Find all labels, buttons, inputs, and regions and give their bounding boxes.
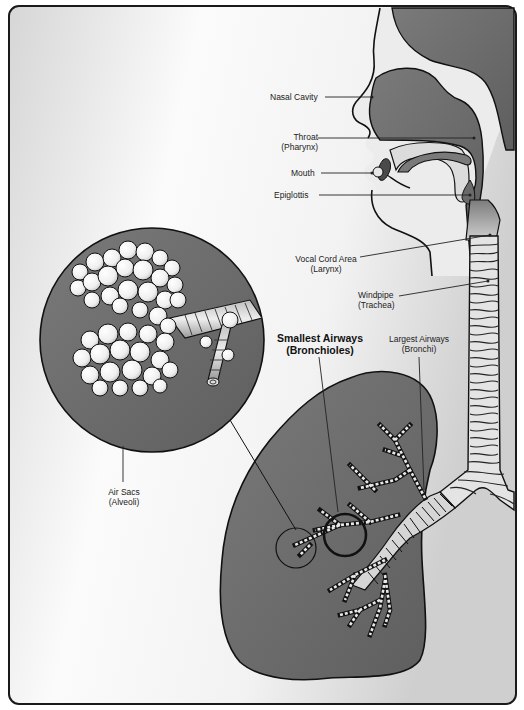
label-throat: Throat (Pharynx) xyxy=(268,132,318,152)
diagram-canvas xyxy=(0,0,524,710)
respiratory-diagram: Nasal Cavity Throat (Pharynx) Mouth Epig… xyxy=(0,0,524,710)
label-alveoli: Air Sacs (Alveoli) xyxy=(100,487,148,507)
label-larynx: Vocal Cord Area (Larynx) xyxy=(288,254,364,274)
label-nasal-cavity: Nasal Cavity xyxy=(270,92,318,102)
label-mouth: Mouth xyxy=(291,168,315,178)
label-bronchi: Largest Airways (Bronchi) xyxy=(383,334,455,354)
label-trachea: Windpipe (Trachea) xyxy=(358,290,395,310)
label-epiglottis: Epiglottis xyxy=(274,190,309,200)
label-bronchioles: Smallest Airways (Bronchioles) xyxy=(265,332,375,356)
